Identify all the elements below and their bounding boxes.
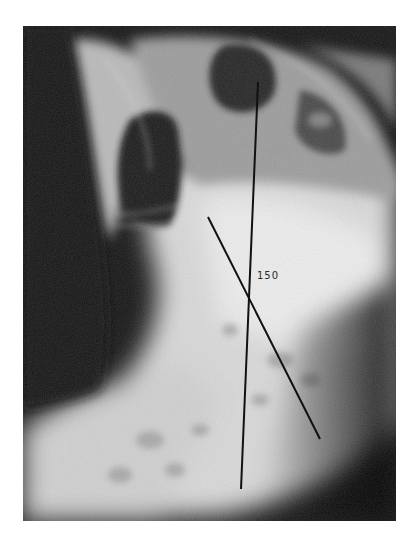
measurement-overlay xyxy=(0,0,416,549)
angle-label: 150 xyxy=(257,270,279,281)
diagonal-reference-line xyxy=(208,217,320,439)
